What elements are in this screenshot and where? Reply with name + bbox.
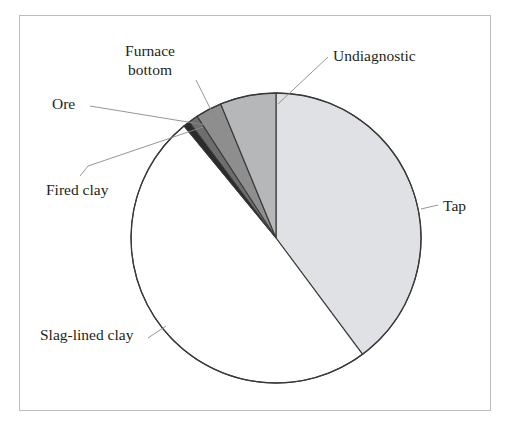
leader-line-ore — [90, 106, 206, 125]
pie-label-furnace-bottom: Furnace bottom — [107, 41, 193, 79]
pie-label-tap: Tap — [443, 196, 466, 215]
pie-chart-figure: Furnace bottom Undiagnostic Ore Fired cl… — [0, 0, 510, 427]
pie-label-ore: Ore — [52, 94, 75, 113]
pie-label-fired-clay: Fired clay — [46, 180, 108, 199]
pie-label-slag-lined-clay: Slag-lined clay — [40, 325, 133, 344]
leader-line-tap — [421, 205, 438, 209]
pie-label-undiagnostic: Undiagnostic — [333, 46, 416, 65]
leader-line-slag-lined-clay — [148, 326, 166, 338]
pie-chart-canvas — [0, 0, 510, 427]
